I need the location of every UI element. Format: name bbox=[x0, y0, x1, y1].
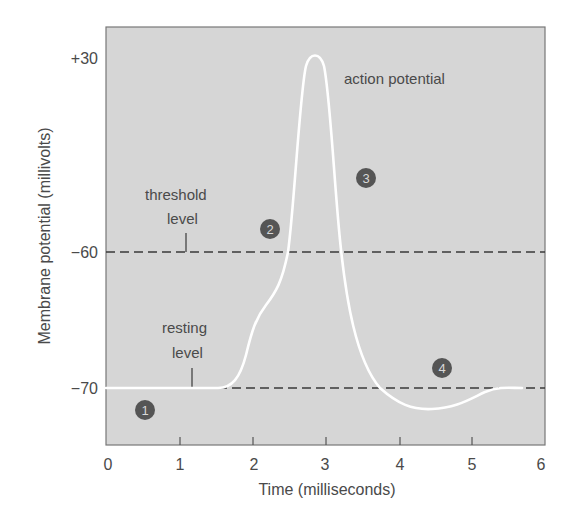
action-potential-chart: 1 2 3 4 action potential threshold level… bbox=[0, 0, 575, 523]
x-axis-label: Time (milliseconds) bbox=[258, 481, 395, 498]
svg-text:4: 4 bbox=[438, 361, 445, 376]
svg-text:2: 2 bbox=[266, 222, 273, 237]
x-tick-2: 2 bbox=[250, 456, 259, 473]
plot-area bbox=[106, 27, 545, 445]
x-tick-6: 6 bbox=[537, 456, 546, 473]
action-potential-label: action potential bbox=[344, 70, 445, 87]
marker-1: 1 bbox=[135, 400, 155, 420]
marker-4: 4 bbox=[432, 358, 452, 378]
x-tick-0: 0 bbox=[104, 456, 113, 473]
marker-2: 2 bbox=[260, 219, 280, 239]
threshold-label-line2: level bbox=[167, 210, 198, 227]
resting-label-line1: resting bbox=[162, 319, 207, 336]
marker-3: 3 bbox=[356, 168, 376, 188]
svg-text:1: 1 bbox=[141, 403, 148, 418]
x-tick-5: 5 bbox=[468, 456, 477, 473]
svg-text:3: 3 bbox=[362, 171, 369, 186]
x-tick-3: 3 bbox=[321, 456, 330, 473]
y-tick-minus70: −70 bbox=[71, 380, 98, 397]
threshold-label-line1: threshold bbox=[145, 186, 207, 203]
x-tick-1: 1 bbox=[176, 456, 185, 473]
y-tick-minus60: −60 bbox=[71, 244, 98, 261]
resting-label-line2: level bbox=[172, 344, 203, 361]
y-tick-plus30: +30 bbox=[71, 50, 98, 67]
x-tick-4: 4 bbox=[396, 456, 405, 473]
y-axis-label: Membrane potential (millivolts) bbox=[36, 128, 53, 345]
